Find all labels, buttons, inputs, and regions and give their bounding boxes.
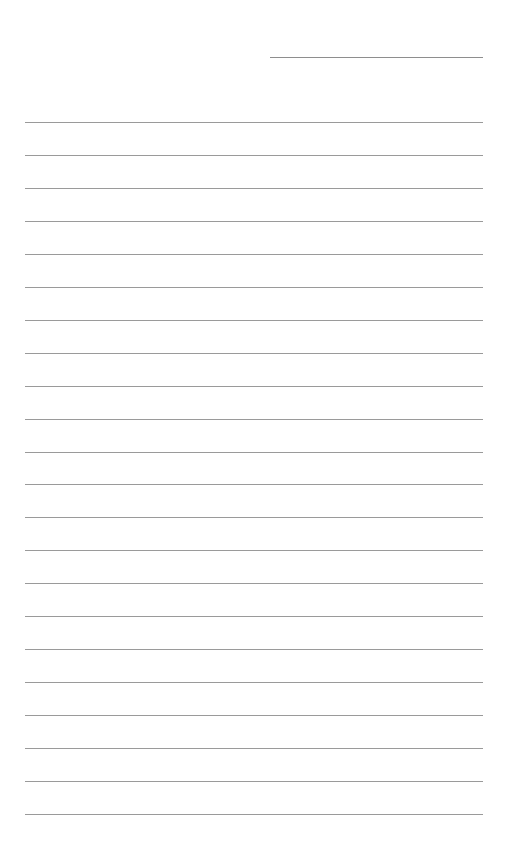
ruled-line bbox=[25, 484, 483, 485]
ruled-line bbox=[25, 122, 483, 123]
ruled-line bbox=[25, 419, 483, 420]
ruled-line bbox=[25, 155, 483, 156]
ruled-line bbox=[25, 715, 483, 716]
ruled-line bbox=[25, 649, 483, 650]
ruled-line bbox=[25, 550, 483, 551]
header-line bbox=[270, 57, 483, 58]
ruled-line bbox=[25, 517, 483, 518]
ruled-line bbox=[25, 320, 483, 321]
ruled-line bbox=[25, 188, 483, 189]
ruled-line bbox=[25, 287, 483, 288]
ruled-line bbox=[25, 353, 483, 354]
ruled-line bbox=[25, 748, 483, 749]
ruled-line bbox=[25, 452, 483, 453]
ruled-line bbox=[25, 814, 483, 815]
ruled-line bbox=[25, 221, 483, 222]
ruled-line bbox=[25, 386, 483, 387]
ruled-line bbox=[25, 616, 483, 617]
ruled-line bbox=[25, 583, 483, 584]
ruled-line bbox=[25, 781, 483, 782]
ruled-line bbox=[25, 254, 483, 255]
ruled-line bbox=[25, 682, 483, 683]
